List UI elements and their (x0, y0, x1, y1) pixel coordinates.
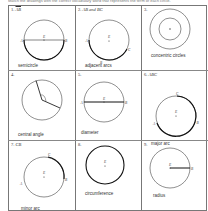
cell-3: 3. concentric circles (141, 5, 207, 70)
cell-8: 8. E circumference (75, 140, 141, 211)
cell-5: 5. A B E diameter (75, 70, 141, 140)
term-label: minor arc (21, 206, 40, 211)
term-label: concentric circles (151, 53, 186, 58)
svg-text:A: A (20, 39, 24, 43)
radius-figure: B E (141, 140, 207, 211)
svg-text:E: E (168, 163, 172, 167)
cell-6: 6. ABC A B C E major arc (141, 70, 207, 140)
instructions-text: Match the drawings with the correct voca… (8, 0, 208, 3)
svg-text:C: C (48, 153, 51, 157)
adjacent-arcs-figure: A B C E (75, 5, 141, 70)
major-arc-figure: A B C E (141, 70, 207, 140)
term-label: circumference (85, 191, 113, 196)
svg-text:B: B (191, 167, 194, 171)
term-label: adjacent arcs (85, 63, 112, 68)
svg-text:A: A (85, 39, 89, 43)
svg-text:C: C (176, 92, 179, 96)
cell-2: 2. AB and BC A B C E adjacent arcs (75, 5, 141, 70)
circumference-figure: E (75, 140, 141, 211)
svg-text:B: B (65, 39, 68, 43)
central-angle-figure (8, 70, 75, 140)
svg-text:A: A (152, 122, 156, 126)
semicircle-figure: A B E (8, 5, 75, 70)
term-label: radius (153, 193, 165, 198)
svg-text:B: B (197, 121, 200, 125)
svg-text:E: E (107, 35, 111, 39)
svg-text:E: E (102, 97, 106, 101)
concentric-circles-figure (141, 5, 207, 70)
term-label: central angle (18, 132, 44, 137)
svg-text:C: C (128, 48, 131, 52)
svg-text:A: A (19, 182, 23, 186)
term-label: diameter (81, 130, 99, 135)
svg-text:A: A (80, 101, 84, 105)
svg-text:E: E (174, 110, 178, 114)
cell-1: 1. AB A B E semicircle (8, 5, 75, 70)
minor-arc-figure: A B C E (8, 140, 75, 211)
svg-text:E: E (42, 171, 46, 175)
svg-text:B: B (65, 178, 68, 182)
cell-7: 7. CB A B C E minor arc (8, 140, 75, 211)
term-label: semicircle (18, 63, 38, 68)
svg-text:B: B (125, 101, 128, 105)
cell-4: 4. central angle (8, 70, 75, 140)
svg-text:E: E (103, 160, 107, 164)
cell-9: 9. B E radius (141, 140, 207, 211)
svg-text:E: E (42, 35, 46, 39)
